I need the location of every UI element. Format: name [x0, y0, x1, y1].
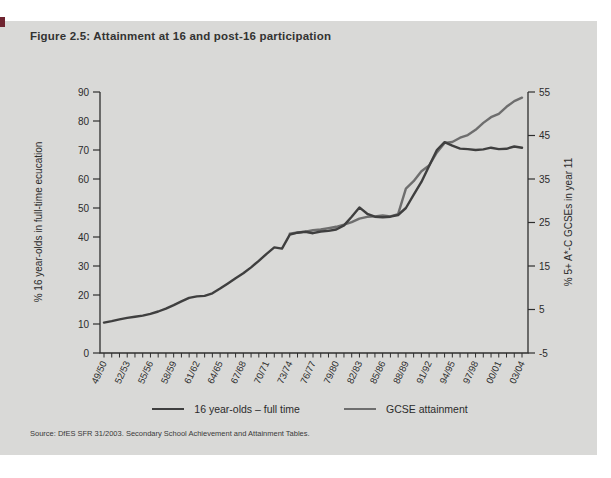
- chart-legend: 16 year-olds – full time GCSE attainment: [60, 403, 560, 415]
- svg-text:73/74: 73/74: [275, 359, 295, 385]
- svg-text:49/50: 49/50: [89, 359, 109, 385]
- svg-text:00/01: 00/01: [484, 359, 504, 385]
- svg-text:55/56: 55/56: [135, 359, 155, 385]
- axes: [100, 92, 528, 353]
- svg-text:76/77: 76/77: [298, 359, 318, 385]
- svg-text:-5: -5: [539, 348, 548, 359]
- svg-text:91/92: 91/92: [414, 359, 434, 385]
- right-axis-title: % 5+ A*-C GCSEs in year 11: [563, 157, 574, 286]
- svg-text:40: 40: [78, 232, 90, 243]
- svg-text:88/89: 88/89: [391, 359, 411, 385]
- svg-text:97/98: 97/98: [460, 359, 480, 385]
- svg-text:52/53: 52/53: [112, 359, 132, 385]
- svg-text:25: 25: [539, 217, 551, 228]
- svg-text:67/68: 67/68: [228, 359, 248, 385]
- svg-text:10: 10: [78, 319, 90, 330]
- axis-ticks: [93, 92, 535, 358]
- svg-text:20: 20: [78, 290, 90, 301]
- svg-text:82/83: 82/83: [344, 359, 364, 385]
- svg-text:50: 50: [78, 203, 90, 214]
- svg-text:90: 90: [78, 87, 90, 98]
- legend-item-gcse: GCSE attainment: [344, 403, 468, 415]
- svg-text:80: 80: [78, 116, 90, 127]
- svg-text:94/95: 94/95: [437, 359, 457, 385]
- svg-text:70/71: 70/71: [251, 359, 271, 385]
- svg-text:60: 60: [78, 174, 90, 185]
- page: Figure 2.5: Attainment at 16 and post-16…: [0, 0, 611, 478]
- svg-text:15: 15: [539, 261, 551, 272]
- legend-item-full-time: 16 year-olds – full time: [152, 403, 300, 415]
- legend-label-gcse: GCSE attainment: [386, 403, 468, 415]
- legend-line-swatch-full-time: [152, 408, 184, 410]
- legend-label-full-time: 16 year-olds – full time: [194, 403, 300, 415]
- left-axis-title: % 16 year-olds in full-time ecucation: [33, 142, 44, 303]
- legend-line-swatch-gcse: [344, 408, 376, 410]
- axis-tick-labels: 0102030405060708090-55152535455549/5052/…: [78, 87, 551, 386]
- svg-text:55: 55: [539, 87, 551, 98]
- source-note: Source: DfES SFR 31/2003. Secondary Scho…: [30, 429, 310, 438]
- svg-text:58/59: 58/59: [158, 359, 178, 385]
- svg-text:30: 30: [78, 261, 90, 272]
- svg-text:45: 45: [539, 130, 551, 141]
- svg-text:64/65: 64/65: [205, 359, 225, 385]
- svg-text:5: 5: [539, 304, 545, 315]
- svg-text:35: 35: [539, 174, 551, 185]
- svg-text:61/62: 61/62: [182, 359, 202, 385]
- svg-text:03/04: 03/04: [507, 359, 527, 385]
- svg-text:70: 70: [78, 145, 90, 156]
- data-series: [104, 98, 522, 323]
- svg-text:0: 0: [83, 348, 89, 359]
- svg-text:79/80: 79/80: [321, 359, 341, 385]
- svg-text:85/86: 85/86: [367, 359, 387, 385]
